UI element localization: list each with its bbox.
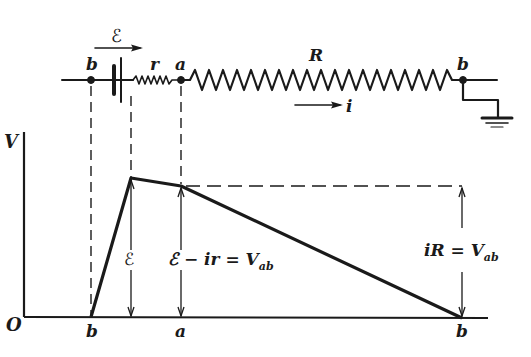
ir-annotation-main: iR = V [424,240,486,260]
ir-annotation: iR = Vab [424,240,499,264]
potential-curve [91,178,462,318]
circuit [62,45,512,128]
terminal-voltage-main: ℰ − ir = V [168,249,261,269]
circuit-potential-diagram: ℰ b r a R i b V O b a b ℰ [0,0,531,357]
y-axis-label: V [4,131,20,152]
x-label-b-left: b [86,321,98,341]
internal-resistor-r [133,76,181,84]
node-b-left [88,77,95,84]
emf-annotation: ℰ [124,249,134,269]
x-label-b-right: b [456,321,468,341]
external-resistor-R [181,70,463,90]
emf-label: ℰ [111,25,122,46]
current-label: i [346,96,352,116]
origin-label: O [6,314,22,335]
external-resistance-label: R [308,45,323,65]
x-label-a: a [175,321,186,341]
terminal-voltage-annotation: ℰ − ir = Vab [168,249,274,273]
x-axis [24,317,488,318]
ground-lead [463,80,498,118]
potential-graph [24,86,488,318]
node-b-right-label: b [457,54,469,74]
ir-annotation-sub: ab [484,251,499,264]
node-b-left-label: b [86,54,98,74]
node-a-label: a [175,54,186,74]
terminal-voltage-sub: ab [259,260,274,273]
internal-resistance-label: r [150,54,160,74]
